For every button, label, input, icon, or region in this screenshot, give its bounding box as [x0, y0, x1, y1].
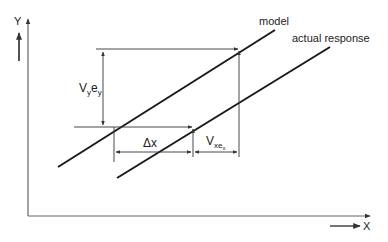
delta-x-label: Δx: [143, 136, 157, 150]
vy-ey-label: Vyey: [79, 81, 102, 97]
diagram-svg: Y X model actual response Vyey Δx Vxex: [0, 0, 388, 242]
y-axis-label: Y: [14, 15, 22, 27]
x-axis-label: X: [363, 220, 371, 232]
vx-ex-label: Vxex: [206, 134, 225, 151]
actual-response-line: [117, 47, 330, 178]
actual-response-label: actual response: [292, 32, 370, 44]
model-label: model: [259, 15, 289, 27]
diagram-canvas: Y X model actual response Vyey Δx Vxex: [0, 0, 388, 242]
